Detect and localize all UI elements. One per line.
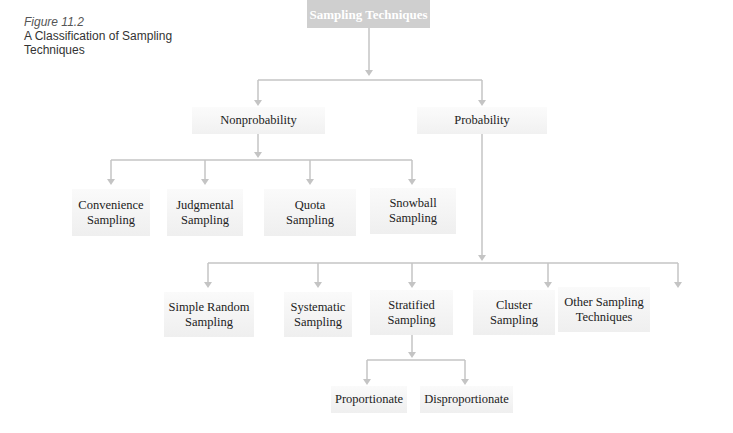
node-probability: Probability — [417, 107, 547, 134]
node-cluster-sampling: Cluster Sampling — [473, 290, 555, 335]
node-simple-random-sampling: Simple Random Sampling — [164, 292, 254, 337]
node-stratified-sampling: Stratified Sampling — [370, 290, 453, 335]
node-nonprobability: Nonprobability — [192, 107, 325, 134]
node-judgmental-sampling: Judgmental Sampling — [167, 189, 243, 236]
node-proportionate: Proportionate — [331, 386, 407, 413]
node-sampling-techniques: Sampling Techniques — [307, 0, 430, 28]
node-convenience-sampling: Convenience Sampling — [72, 189, 150, 236]
node-snowball-sampling: Snowball Sampling — [370, 188, 456, 234]
node-systematic-sampling: Systematic Sampling — [284, 292, 352, 337]
node-other-sampling-techniques: Other Sampling Techniques — [558, 287, 650, 332]
node-quota-sampling: Quota Sampling — [264, 189, 356, 236]
node-disproportionate: Disproportionate — [420, 386, 513, 413]
